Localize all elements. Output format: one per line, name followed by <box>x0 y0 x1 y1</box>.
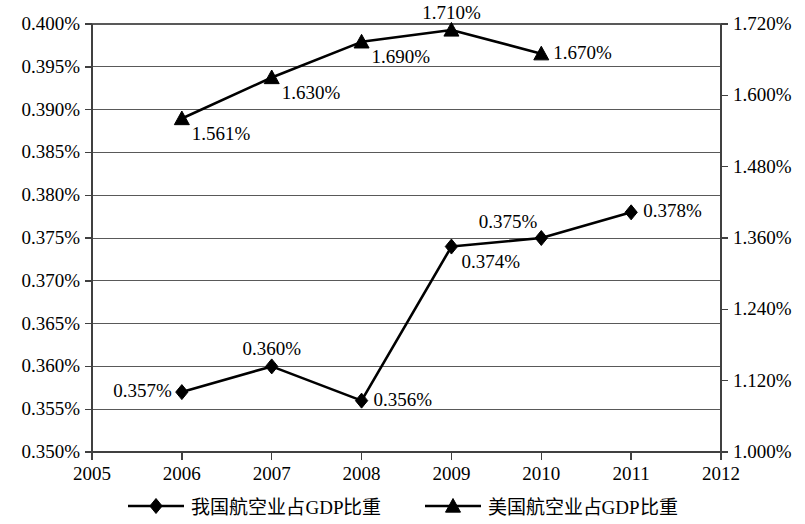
y-axis-right-tick-label: 1.120% <box>733 371 792 390</box>
y-axis-left-tick-label: 0.355% <box>0 399 80 418</box>
y-axis-left-tick-label: 0.365% <box>0 314 80 333</box>
series-marker-triangle <box>264 70 279 84</box>
y-axis-left-tick-label: 0.395% <box>0 57 80 76</box>
x-axis-tick-label: 2010 <box>496 464 586 483</box>
y-axis-left-tick-label: 0.350% <box>0 442 80 461</box>
series-marker-triangle <box>174 111 189 125</box>
series-line-0 <box>182 212 631 400</box>
data-point-label: 0.374% <box>461 252 539 271</box>
legend-marker <box>150 498 162 513</box>
legend-entry-1[interactable]: 美国航空业占GDP比重 <box>424 492 678 519</box>
legend-label: 美国航空业占GDP比重 <box>488 492 678 519</box>
legend-entry-0[interactable]: 我国航空业占GDP比重 <box>127 492 381 519</box>
data-point-label: 0.357% <box>94 381 172 400</box>
y-axis-right-tick-label: 1.000% <box>733 442 792 461</box>
y-axis-right-tick-label: 1.720% <box>733 14 792 33</box>
chart-legend: 我国航空业占GDP比重美国航空业占GDP比重 <box>0 492 805 519</box>
data-point-label: 0.360% <box>233 339 311 358</box>
x-axis-tick-label: 2011 <box>586 464 676 483</box>
y-axis-left-tick-label: 0.370% <box>0 271 80 290</box>
x-axis-ticks <box>92 452 721 460</box>
y-axis-right-tick-label: 1.600% <box>733 85 792 104</box>
series-marker-diamond <box>535 231 547 246</box>
data-point-label: 0.356% <box>374 390 452 409</box>
series-marker-diamond <box>625 205 637 220</box>
data-point-label: 1.670% <box>553 43 631 62</box>
y-axis-right-tick-label: 1.480% <box>733 157 792 176</box>
y-axis-left-tick-label: 0.390% <box>0 100 80 119</box>
series-marker-diamond <box>266 359 278 374</box>
y-axis-right-tick-label: 1.360% <box>733 228 792 247</box>
data-point-label: 1.690% <box>372 47 450 66</box>
x-axis-tick-label: 2008 <box>317 464 407 483</box>
legend-diamond-marker-icon <box>127 495 185 517</box>
series-marker-diamond <box>176 385 188 400</box>
y-axis-left-tick-label: 0.385% <box>0 142 80 161</box>
y-axis-left-tick-label: 0.360% <box>0 356 80 375</box>
data-point-label: 1.630% <box>282 83 360 102</box>
data-point-label: 1.561% <box>192 124 270 143</box>
data-point-label: 1.710% <box>412 3 490 22</box>
legend-label: 我国航空业占GDP比重 <box>191 492 381 519</box>
legend-triangle-marker-icon <box>424 495 482 517</box>
x-axis-tick-label: 2006 <box>137 464 227 483</box>
data-point-label: 0.375% <box>459 212 537 231</box>
gridlines <box>92 24 721 452</box>
data-point-label: 0.378% <box>643 201 721 220</box>
x-axis-tick-label: 2012 <box>676 464 766 483</box>
x-axis-tick-label: 2007 <box>227 464 317 483</box>
y-axis-right-ticks <box>721 24 728 452</box>
y-axis-right-tick-label: 1.240% <box>733 299 792 318</box>
y-axis-left-tick-label: 0.400% <box>0 14 80 33</box>
chart-plot-svg <box>0 0 805 524</box>
y-axis-left-ticks <box>85 24 92 452</box>
x-axis-tick-label: 2009 <box>406 464 496 483</box>
y-axis-left-tick-label: 0.380% <box>0 185 80 204</box>
y-axis-left-tick-label: 0.375% <box>0 228 80 247</box>
x-axis-tick-label: 2005 <box>47 464 137 483</box>
chart-container: 0.350%0.355%0.360%0.365%0.370%0.375%0.38… <box>0 0 805 524</box>
